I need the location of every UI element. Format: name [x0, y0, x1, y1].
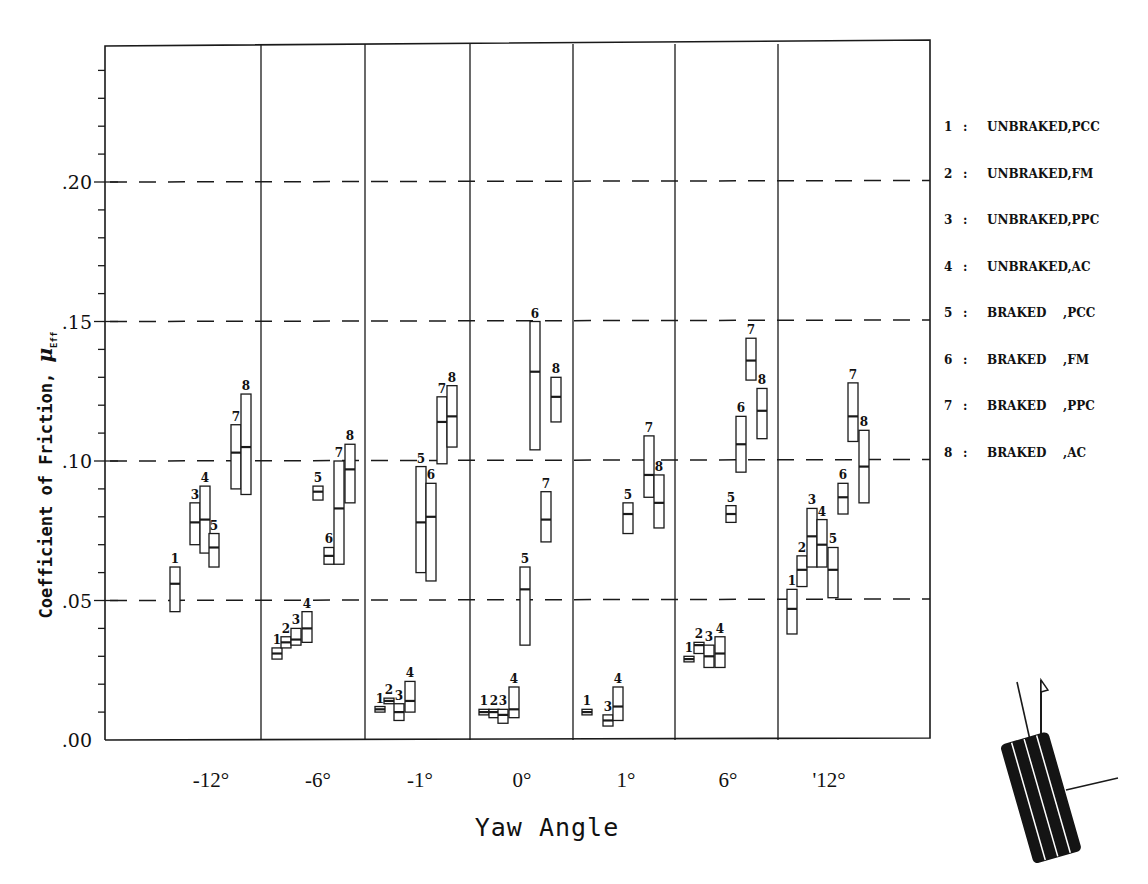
box-8: 8 — [345, 429, 355, 503]
y-tick-label: .05 — [62, 590, 92, 612]
box-label: 7 — [438, 382, 446, 396]
range-box — [787, 589, 797, 634]
range-box — [715, 637, 725, 668]
legend-id: 5 — [944, 306, 952, 320]
box-label: 8 — [655, 460, 663, 474]
range-box — [848, 383, 858, 442]
range-box — [509, 687, 519, 718]
x-tick-label: 1° — [617, 768, 636, 792]
range-box — [838, 483, 848, 514]
box-2: 2 — [281, 622, 291, 648]
box-label: 8 — [552, 362, 560, 376]
box-4: 4 — [405, 666, 415, 712]
legend-id: 2 — [944, 167, 952, 181]
dashed-gridline — [110, 181, 930, 183]
range-box — [654, 475, 664, 528]
box-8: 8 — [654, 460, 664, 528]
box-label: 6 — [531, 307, 539, 321]
legend-label: UNBRAKED,PCC — [987, 120, 1100, 134]
box-label: 2 — [695, 627, 703, 641]
legend-separator: : — [963, 306, 967, 320]
box-5: 5 — [209, 519, 219, 567]
box-label: 1 — [685, 641, 693, 655]
x-axis-tick-labels: -12°-6°-1°0°1°6°'12° — [193, 768, 846, 792]
range-box — [426, 483, 436, 581]
y-tick-label: .20 — [62, 171, 92, 193]
box-group: 134578 — [170, 379, 251, 612]
range-box — [209, 534, 219, 567]
box-3: 3 — [190, 488, 200, 545]
box-8: 8 — [447, 371, 457, 447]
box-1: 1 — [582, 694, 592, 715]
box-7: 7 — [746, 323, 756, 380]
box-label: 1 — [480, 694, 488, 708]
legend-label: UNBRAKED,PPC — [987, 213, 1099, 227]
box-8: 8 — [551, 362, 561, 422]
legend-id: 8 — [944, 446, 952, 460]
legend-separator: : — [963, 260, 967, 274]
legend-item-7: 7:BRAKED ,PPC — [944, 399, 1095, 413]
box-label: 6 — [427, 468, 435, 482]
x-tick-label: 0° — [513, 768, 532, 792]
box-group: 12345678 — [787, 368, 869, 634]
box-label: 7 — [645, 421, 653, 435]
box-2: 2 — [384, 683, 394, 704]
box-label: 7 — [232, 410, 240, 424]
box-series: 1345781234567812345678123456781345781234… — [170, 307, 869, 727]
x-axis-title: Yaw Angle — [475, 813, 619, 842]
box-label: 3 — [499, 694, 507, 708]
y-axis-tick-labels: .00.05.10.15.20 — [62, 171, 92, 751]
legend-item-4: 4:UNBRAKED,AC — [944, 260, 1090, 274]
range-box — [345, 444, 355, 503]
plot-frame — [105, 40, 930, 740]
box-4: 4 — [817, 505, 827, 567]
box-label: 5 — [314, 471, 322, 485]
box-label: 6 — [737, 401, 745, 415]
box-7: 7 — [541, 477, 551, 542]
range-box — [405, 681, 415, 712]
legend-separator: : — [963, 213, 967, 227]
legend-label: UNBRAKED,FM — [987, 167, 1093, 181]
legend-id: 4 — [944, 260, 952, 274]
range-box — [241, 394, 251, 494]
legend-item-3: 3:UNBRAKED,PPC — [944, 213, 1099, 227]
range-box — [291, 628, 301, 645]
box-label: 3 — [395, 689, 403, 703]
box-label: 4 — [614, 672, 622, 686]
legend-item-2: 2:UNBRAKED,FM — [944, 167, 1093, 181]
box-3: 3 — [498, 694, 508, 723]
y-axis-title: Coefficient of Friction, μEff — [33, 332, 59, 619]
legend-id: 7 — [944, 399, 952, 413]
box-label: 2 — [282, 622, 290, 636]
box-7: 7 — [231, 410, 241, 489]
y-axis-title-text: Coefficient of Friction, — [36, 363, 56, 619]
box-label: 5 — [521, 552, 529, 566]
box-group: 12345678 — [684, 323, 767, 667]
range-box — [828, 547, 838, 597]
box-label: 8 — [346, 429, 354, 443]
box-6: 6 — [838, 468, 848, 514]
x-tick-label: -1° — [407, 768, 433, 792]
box-label: 7 — [542, 477, 550, 491]
box-label: 8 — [758, 373, 766, 387]
tire-yaw-diagram-icon — [1000, 680, 1118, 864]
range-box — [437, 397, 447, 464]
x-tick-label: -12° — [193, 768, 229, 792]
box-label: 1 — [583, 694, 591, 708]
legend-separator: : — [963, 167, 967, 181]
y-tick-label: .15 — [62, 311, 92, 333]
range-box — [302, 612, 312, 643]
range-box — [416, 467, 426, 573]
range-box — [623, 503, 633, 534]
x-tick-label: 6° — [719, 768, 738, 792]
box-3: 3 — [291, 613, 301, 645]
box-group: 134578 — [582, 421, 664, 726]
range-box — [817, 520, 827, 567]
box-3: 3 — [807, 493, 817, 567]
box-label: 1 — [171, 552, 179, 566]
box-6: 6 — [324, 532, 334, 564]
box-label: 7 — [849, 368, 857, 382]
box-1: 1 — [170, 552, 180, 612]
range-box — [190, 503, 200, 545]
box-label: 4 — [303, 597, 311, 611]
